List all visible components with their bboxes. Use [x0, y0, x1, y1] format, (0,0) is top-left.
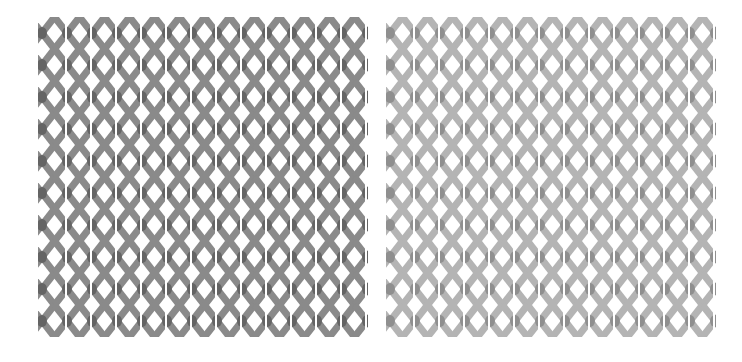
lattice-pattern-right	[386, 17, 716, 337]
lattice-pattern-left	[38, 17, 368, 337]
lattice-svg	[386, 17, 716, 337]
lattice-svg	[38, 17, 368, 337]
